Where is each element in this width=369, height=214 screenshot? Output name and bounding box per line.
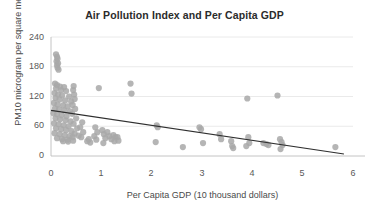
data-point [243, 143, 249, 149]
data-point [115, 138, 121, 144]
data-point [93, 137, 99, 143]
data-point [200, 140, 206, 146]
data-point [73, 115, 79, 121]
data-point [100, 140, 106, 146]
data-point [72, 96, 78, 102]
data-point [277, 146, 283, 152]
data-point [127, 81, 133, 87]
gridlines [51, 37, 353, 126]
data-point [218, 136, 224, 142]
data-point [274, 92, 280, 98]
data-point [96, 85, 102, 91]
data-point [128, 90, 134, 96]
data-point [198, 126, 204, 132]
data-point [155, 124, 161, 130]
plot-area [0, 0, 369, 214]
data-point [55, 67, 61, 73]
scatter-chart: Air Pollution Index and Per Capita GDP P… [0, 0, 369, 214]
data-point [86, 136, 92, 142]
data-point [78, 134, 84, 140]
data-point [244, 95, 250, 101]
data-point [70, 138, 76, 144]
data-point [153, 139, 159, 145]
data-point [332, 144, 338, 150]
data-point [230, 145, 236, 151]
data-point [180, 144, 186, 150]
